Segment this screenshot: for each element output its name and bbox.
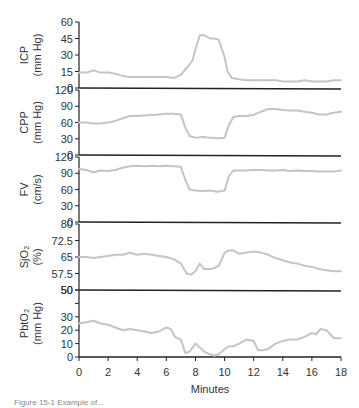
y-tick-label: 90 xyxy=(61,167,73,179)
x-tick-label: 14 xyxy=(277,366,289,378)
multi-panel-chart: 015304560ICP(mm Hg)0306090120CPP(mm Hg)0… xyxy=(0,0,359,408)
y-axis-title-icp: ICP xyxy=(18,46,30,64)
trace-cpp xyxy=(79,109,341,138)
panel-baseline-sjo2 xyxy=(79,290,341,291)
panel-baseline-cpp xyxy=(79,155,341,156)
y-tick-label: 120 xyxy=(55,151,73,163)
x-tick-label: 12 xyxy=(248,366,260,378)
y-axis-title-fv: FV xyxy=(18,182,30,197)
x-tick-label: 2 xyxy=(105,366,111,378)
panel-baseline-fv xyxy=(79,222,341,223)
x-tick-label: 18 xyxy=(335,366,347,378)
x-tick-label: 6 xyxy=(163,366,169,378)
y-tick-label: 65 xyxy=(61,251,73,263)
y-tick-label: 30 xyxy=(61,49,73,61)
trace-pbto2 xyxy=(79,321,341,356)
y-tick-label: 0 xyxy=(67,351,73,363)
y-tick-label: 50 xyxy=(61,284,73,296)
x-tick-label: 10 xyxy=(218,366,230,378)
y-axis-unit-icp: (mm Hg) xyxy=(31,34,43,77)
y-tick-label: 80 xyxy=(61,218,73,230)
figure-caption: Figure 15-1 Example of... xyxy=(14,398,104,407)
y-tick-label: 45 xyxy=(61,33,73,45)
y-tick-label: 60 xyxy=(61,117,73,129)
y-tick-label: 10 xyxy=(61,338,73,350)
x-tick-label: 0 xyxy=(76,366,82,378)
trace-icp xyxy=(79,35,341,81)
y-tick-label: 60 xyxy=(61,16,73,28)
x-tick-label: 4 xyxy=(134,366,140,378)
y-axis-title-cpp: CPP xyxy=(18,111,30,134)
y-axis-unit-pbto2: (mm Hg) xyxy=(31,302,43,345)
y-tick-label: 30 xyxy=(61,200,73,212)
y-axis-title-sjo2: SjO₂ xyxy=(18,246,30,269)
x-tick-label: 8 xyxy=(192,366,198,378)
y-tick-label: 60 xyxy=(61,184,73,196)
y-tick-label: 120 xyxy=(55,84,73,96)
y-axis-unit-sjo2: (%) xyxy=(31,248,43,265)
y-tick-label: 30 xyxy=(61,311,73,323)
x-tick-label: 16 xyxy=(306,366,318,378)
y-axis-title-pbto2: PbtO₂ xyxy=(18,309,30,338)
plot-area: 015304560ICP(mm Hg)0306090120CPP(mm Hg)0… xyxy=(18,16,347,395)
x-axis-title: Minutes xyxy=(191,383,230,395)
trace-sjo2 xyxy=(79,250,341,274)
y-tick-label: 15 xyxy=(61,66,73,78)
y-tick-label: 90 xyxy=(61,100,73,112)
y-tick-label: 72.5 xyxy=(52,235,73,247)
panel-baseline-icp xyxy=(79,88,341,89)
trace-fv xyxy=(79,166,341,192)
y-axis-unit-fv: (cm/s) xyxy=(31,174,43,205)
y-tick-label: 57.5 xyxy=(52,268,73,280)
y-axis-unit-cpp: (mm Hg) xyxy=(31,101,43,144)
y-tick-label: 20 xyxy=(61,324,73,336)
y-tick-label: 30 xyxy=(61,133,73,145)
